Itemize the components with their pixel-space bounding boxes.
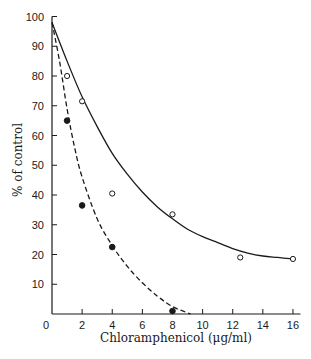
x-tick-label: 16 — [287, 319, 299, 331]
filled-circle-point — [64, 118, 70, 124]
filled-circle-point — [109, 244, 115, 250]
y-tick-label: 70 — [32, 100, 44, 112]
y-tick-label: 20 — [32, 249, 44, 261]
data-points — [64, 73, 295, 313]
x-tick-label: 12 — [227, 319, 239, 331]
x-axis-title: Chloramphenicol (μg/ml) — [100, 331, 252, 345]
x-tick-label: 6 — [139, 319, 145, 331]
open-circle-point — [80, 99, 85, 104]
filled-circle-point — [170, 308, 176, 314]
fit-curves — [52, 22, 293, 314]
y-axis-title: % of control — [11, 123, 25, 197]
open-circle-point — [238, 255, 243, 260]
y-tick-label: 40 — [32, 189, 44, 201]
x-tick-label: 8 — [169, 319, 175, 331]
x-tick-label: 4 — [109, 319, 115, 331]
x-tick-label: 2 — [79, 319, 85, 331]
axes — [52, 17, 300, 315]
y-tick-label: 60 — [32, 130, 44, 142]
filled-circle-point — [79, 203, 85, 209]
y-tick-label: 10 — [32, 278, 44, 290]
y-tick-label: 50 — [32, 159, 44, 171]
chart: 1020304050607080901002468101214160 Chlor… — [0, 0, 311, 359]
solid-fit-curve — [52, 22, 293, 259]
x-tick-label: 14 — [257, 319, 269, 331]
open-circle-point — [110, 191, 115, 196]
open-circle-point — [64, 73, 69, 78]
open-circle-point — [170, 212, 175, 217]
y-tick-label: 100 — [26, 11, 44, 23]
dashed-fit-curve — [52, 22, 191, 314]
y-tick-label: 90 — [32, 40, 44, 52]
origin-label: 0 — [43, 319, 49, 331]
open-circle-point — [290, 256, 295, 261]
y-tick-label: 80 — [32, 70, 44, 82]
y-tick-label: 30 — [32, 219, 44, 231]
x-tick-label: 10 — [196, 319, 208, 331]
